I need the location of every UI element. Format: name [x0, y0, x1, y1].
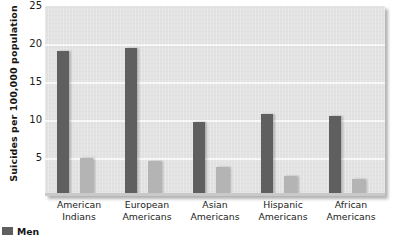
bar-women	[148, 161, 160, 196]
bar-group	[113, 6, 181, 196]
bar-men	[125, 48, 137, 196]
x-axis-label-line: Asian	[181, 199, 249, 211]
x-axis-label-line: Indians	[45, 211, 113, 223]
bar-groups	[45, 6, 385, 196]
bar-men	[193, 122, 205, 196]
bar-men	[261, 114, 273, 196]
x-axis-label: EuropeanAmericans	[113, 199, 181, 223]
y-tick-10: 10	[20, 115, 42, 125]
x-axis-label: AmericanIndians	[45, 199, 113, 223]
bar-women	[216, 167, 228, 196]
y-tick-5: 5	[20, 153, 42, 163]
legend: Men	[2, 227, 39, 236]
x-axis-label: AfricanAmericans	[317, 199, 385, 223]
x-axis-label: HispanicAmericans	[249, 199, 317, 223]
x-axis-label-line: Americans	[249, 211, 317, 223]
bar-men	[329, 116, 341, 196]
bar-men	[57, 51, 69, 196]
y-tick-25: 25	[20, 1, 42, 11]
x-axis-label-line: African	[317, 199, 385, 211]
x-axis-label-line: European	[113, 199, 181, 211]
bar-women	[80, 158, 92, 196]
bar-group	[181, 6, 249, 196]
x-axis-label: AsianAmericans	[181, 199, 249, 223]
y-tick-15: 15	[20, 77, 42, 87]
y-axis-tick-labels: 510152025	[20, 0, 42, 200]
x-axis-baseline	[45, 193, 385, 196]
bar-group	[45, 6, 113, 196]
bar-group	[249, 6, 317, 196]
x-axis-label-line: Americans	[317, 211, 385, 223]
suicide-rate-bar-chart: Suicides per 100,000 population 51015202…	[0, 0, 400, 237]
y-axis-title: Suicides per 100,000 population	[8, 0, 19, 191]
plot-area	[45, 6, 385, 196]
x-axis-labels: AmericanIndiansEuropeanAmericansAsianAme…	[45, 199, 385, 223]
x-axis-label-line: Americans	[113, 211, 181, 223]
x-axis-label-line: Hispanic	[249, 199, 317, 211]
y-tick-20: 20	[20, 39, 42, 49]
x-axis-label-line: American	[45, 199, 113, 211]
bar-group	[317, 6, 385, 196]
legend-label-men: Men	[17, 227, 39, 236]
x-axis-label-line: Americans	[181, 211, 249, 223]
legend-swatch-men-icon	[2, 227, 13, 235]
